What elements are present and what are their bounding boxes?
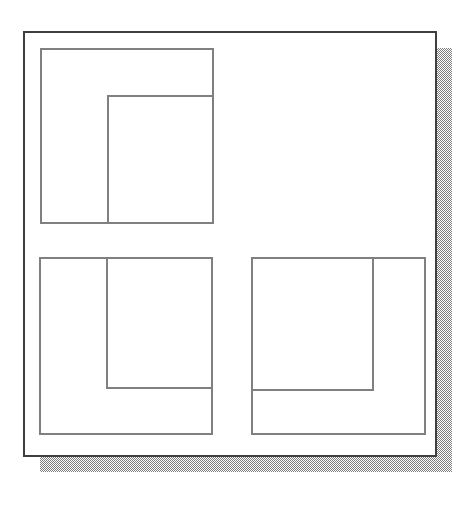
diagram-canvas: Nested rectangle layout diagram A border… bbox=[0, 0, 474, 505]
bottom-left-group bbox=[40, 258, 212, 434]
bottom-left-outer-rect bbox=[40, 258, 212, 434]
top-left-group bbox=[41, 49, 213, 223]
top-left-outer-rect bbox=[41, 49, 213, 223]
nested-rectangles-diagram: Nested rectangle layout diagram A border… bbox=[0, 0, 474, 505]
bottom-right-group bbox=[252, 258, 425, 434]
bottom-right-outer-rect bbox=[252, 258, 425, 434]
